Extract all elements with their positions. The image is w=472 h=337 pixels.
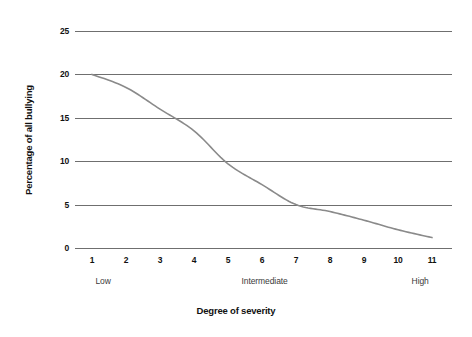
series-line-bullying bbox=[92, 74, 432, 237]
bullying-severity-chart: Percentage of all bullying 0510152025 12… bbox=[0, 0, 472, 337]
x-tick-label: 8 bbox=[320, 255, 340, 265]
x-axis-title: Degree of severity bbox=[0, 305, 472, 316]
gridline-0 bbox=[75, 248, 452, 249]
y-tick-label: 20 bbox=[47, 69, 69, 79]
x-tick-label: 6 bbox=[252, 255, 272, 265]
gridline-15 bbox=[75, 118, 452, 119]
band-label: Low bbox=[95, 276, 110, 286]
y-axis-title: Percentage of all bullying bbox=[20, 31, 36, 248]
band-label: Intermediate bbox=[242, 276, 288, 286]
x-tick-label: 2 bbox=[116, 255, 136, 265]
x-tick-label: 4 bbox=[184, 255, 204, 265]
x-tick-label: 3 bbox=[150, 255, 170, 265]
x-tick-label: 10 bbox=[388, 255, 408, 265]
y-tick-label: 10 bbox=[47, 156, 69, 166]
gridline-20 bbox=[75, 74, 452, 75]
y-axis-title-label: Percentage of all bullying bbox=[23, 85, 34, 195]
gridline-25 bbox=[75, 31, 452, 32]
band-label: High bbox=[412, 276, 429, 286]
y-tick-label: 0 bbox=[47, 243, 69, 253]
x-tick-label: 1 bbox=[82, 255, 102, 265]
x-tick-label: 5 bbox=[218, 255, 238, 265]
y-tick-label: 25 bbox=[47, 26, 69, 36]
series-line-layer bbox=[0, 0, 472, 337]
x-tick-label: 9 bbox=[354, 255, 374, 265]
x-tick-label: 11 bbox=[422, 255, 442, 265]
gridline-5 bbox=[75, 205, 452, 206]
y-tick-label: 5 bbox=[47, 200, 69, 210]
gridline-10 bbox=[75, 161, 452, 162]
x-tick-label: 7 bbox=[286, 255, 306, 265]
y-tick-label: 15 bbox=[47, 113, 69, 123]
